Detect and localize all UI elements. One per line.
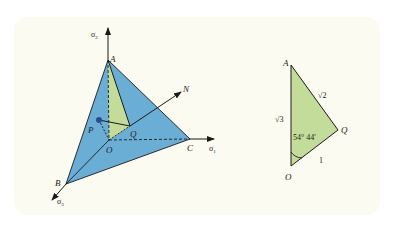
label-sigma2: σ2 — [91, 30, 98, 40]
octahedral-plane-diagram: A B C O P Q N σ2 σ1 σ3 A Q O √2 √3 1 54°… — [0, 0, 394, 226]
label-C: C — [187, 143, 194, 153]
label-Q: Q — [130, 129, 137, 139]
label-side-1: 1 — [319, 156, 323, 165]
label-B: B — [55, 178, 61, 188]
label-side-sqrt3: √3 — [275, 115, 283, 124]
label-O: O — [106, 145, 113, 155]
label-O-right: O — [285, 172, 292, 182]
label-P: P — [87, 125, 94, 135]
label-angle: 54° 44′ — [293, 133, 316, 142]
label-A: A — [109, 54, 116, 64]
label-side-sqrt2: √2 — [318, 91, 326, 100]
label-A-right: A — [282, 58, 289, 68]
tetrahedron-diagram: A B C O P Q N σ2 σ1 σ3 — [52, 28, 216, 207]
label-N: N — [182, 84, 190, 94]
point-P — [96, 117, 102, 123]
label-Q-right: Q — [341, 125, 348, 135]
label-sigma3: σ3 — [57, 197, 64, 207]
right-triangle-AOQ: A Q O √2 √3 1 54° 44′ — [275, 58, 348, 182]
label-sigma1: σ1 — [209, 144, 216, 154]
